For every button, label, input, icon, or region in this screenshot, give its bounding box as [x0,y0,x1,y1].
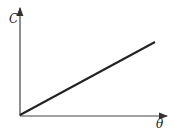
y-axis-label: C [9,12,18,26]
x-axis-label: θ [156,117,164,130]
data-line [20,42,155,115]
chart: C θ [0,0,173,130]
